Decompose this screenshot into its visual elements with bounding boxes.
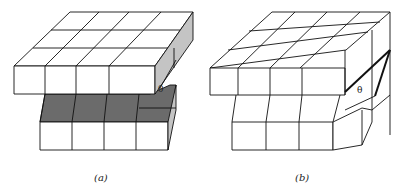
caption-b: (b) (295, 172, 309, 183)
theta-label-a: θ (158, 84, 163, 94)
panel-b-drawing (210, 12, 390, 150)
panel-a-drawing (14, 12, 193, 150)
dislocation-diagram (0, 0, 400, 189)
theta-label-b: θ (357, 85, 362, 95)
caption-a: (a) (94, 172, 108, 183)
